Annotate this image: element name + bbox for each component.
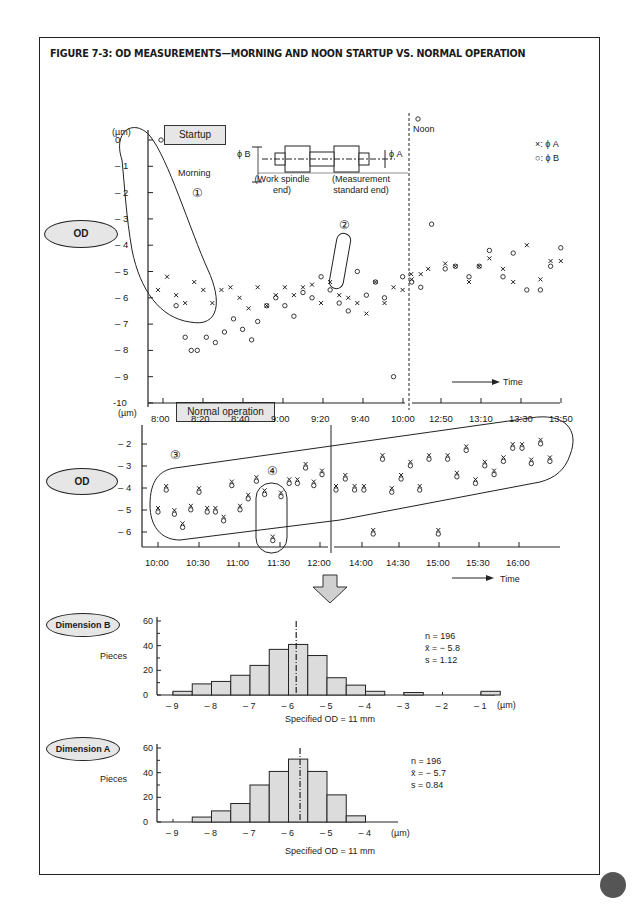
svg-text:– 8: – 8 (115, 344, 128, 355)
svg-text:13:50: 13:50 (549, 413, 573, 424)
svg-text:– 7: – 7 (243, 701, 256, 711)
svg-text:15:30: 15:30 (466, 557, 490, 568)
svg-text:10:00: 10:00 (391, 413, 415, 424)
svg-text:-10: -10 (113, 397, 127, 408)
svg-text:12:00: 12:00 (307, 557, 331, 568)
svg-text:9:00: 9:00 (271, 413, 290, 424)
svg-text:60: 60 (143, 743, 153, 753)
svg-text:40: 40 (143, 768, 153, 778)
svg-text:– 5: – 5 (118, 504, 131, 515)
svg-text:– 1: – 1 (115, 160, 128, 171)
svg-text:0: 0 (143, 690, 148, 700)
svg-text:0: 0 (143, 817, 148, 827)
svg-text:– 9: – 9 (115, 371, 128, 382)
svg-text:11:00: 11:00 (226, 557, 249, 568)
svg-text:11:30: 11:30 (267, 557, 290, 568)
svg-text:15:00: 15:00 (426, 557, 450, 568)
svg-text:14:30: 14:30 (386, 557, 410, 568)
svg-text:14:00: 14:00 (349, 557, 373, 568)
svg-text:20: 20 (143, 792, 153, 802)
svg-text:10:00: 10:00 (145, 557, 169, 568)
svg-text:– 8: – 8 (205, 701, 218, 711)
svg-text:– 6: – 6 (118, 526, 131, 537)
svg-text:– 9: – 9 (166, 828, 179, 838)
svg-text:– 4: – 4 (359, 701, 372, 711)
svg-text:13:10: 13:10 (469, 413, 493, 424)
svg-text:– 6: – 6 (282, 701, 295, 711)
svg-text:9:40: 9:40 (351, 413, 370, 424)
svg-text:– 4: – 4 (115, 239, 128, 250)
svg-text:– 5: – 5 (115, 266, 128, 277)
svg-text:8:40: 8:40 (231, 413, 250, 424)
svg-text:– 4: – 4 (118, 482, 131, 493)
svg-text:– 2: – 2 (115, 187, 128, 198)
svg-text:– 5: – 5 (320, 701, 333, 711)
page-marker (600, 872, 626, 898)
svg-text:– 3: – 3 (115, 213, 128, 224)
svg-text:– 7: – 7 (243, 828, 256, 838)
svg-text:– 3: – 3 (397, 701, 410, 711)
charts-canvas: 0– 1– 2– 3– 4– 5– 6– 7– 8– 9-108:008:208… (0, 0, 639, 905)
svg-text:16:00: 16:00 (506, 557, 530, 568)
svg-text:8:00: 8:00 (151, 413, 170, 424)
svg-text:12:50: 12:50 (429, 413, 453, 424)
svg-text:60: 60 (143, 616, 153, 626)
svg-text:– 5: – 5 (320, 828, 333, 838)
svg-text:– 2: – 2 (436, 701, 449, 711)
svg-text:– 8: – 8 (205, 828, 218, 838)
svg-text:– 4: – 4 (359, 828, 372, 838)
svg-text:20: 20 (143, 665, 153, 675)
svg-text:– 2: – 2 (118, 438, 131, 449)
svg-text:– 3: – 3 (118, 460, 131, 471)
svg-text:– 9: – 9 (166, 701, 179, 711)
svg-text:8:20: 8:20 (191, 413, 210, 424)
svg-text:– 1: – 1 (474, 701, 487, 711)
svg-text:10:30: 10:30 (186, 557, 210, 568)
svg-text:9:20: 9:20 (311, 413, 330, 424)
svg-text:– 7: – 7 (115, 318, 128, 329)
svg-text:– 6: – 6 (282, 828, 295, 838)
svg-text:40: 40 (143, 641, 153, 651)
svg-text:– 6: – 6 (115, 292, 128, 303)
